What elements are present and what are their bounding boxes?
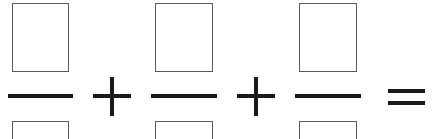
numerator-box-3[interactable] [299, 3, 357, 72]
denominator-box-1[interactable] [12, 121, 69, 139]
equals-bottom-bar [388, 101, 425, 105]
plus-vertical-2 [254, 77, 258, 116]
fraction-bar-3 [295, 94, 361, 98]
denominator-box-3[interactable] [299, 121, 357, 139]
fraction-bar-2 [151, 94, 217, 98]
numerator-box-1[interactable] [12, 3, 69, 72]
equals-top-bar [388, 89, 425, 93]
denominator-box-2[interactable] [155, 121, 213, 139]
fraction-bar-1 [8, 94, 73, 98]
numerator-box-2[interactable] [155, 3, 213, 72]
plus-vertical-1 [110, 77, 114, 116]
